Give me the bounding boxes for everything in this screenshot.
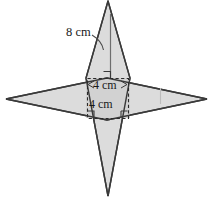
geometry-figure-svg: 8 cm 4 cm 4 cm: [0, 0, 213, 198]
square-height-label: 4 cm: [89, 97, 113, 111]
height-label: 8 cm: [66, 25, 91, 39]
square-width-label: 4 cm: [93, 78, 117, 92]
geometry-figure-container: 8 cm 4 cm 4 cm: [0, 0, 213, 198]
